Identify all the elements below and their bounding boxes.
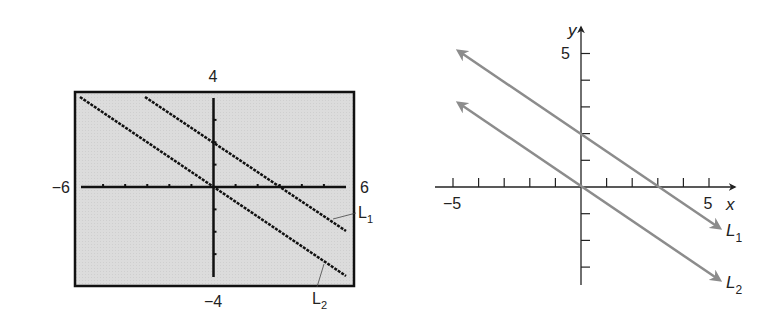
graph-l2-label: L2 — [726, 273, 742, 297]
graph-line-l2 — [460, 104, 718, 279]
x-neg-tick-label: −5 — [443, 195, 461, 212]
calc-l2-label: L2 — [312, 290, 327, 311]
x-pos-tick-label: 5 — [704, 195, 713, 212]
calc-xmin-label: −6 — [52, 179, 70, 196]
calculator-screen: 4 −4 −6 6 L1 L2 — [52, 68, 373, 311]
calc-xmax-label: 6 — [360, 179, 369, 196]
cartesian-graph: −5 5 5 x y L1 L2 — [435, 21, 742, 297]
calc-l1-label: L1 — [358, 204, 373, 225]
graph-l1-label: L1 — [726, 221, 742, 245]
calc-ymax-label: 4 — [209, 68, 218, 85]
figure: 4 −4 −6 6 L1 L2 −5 5 5 x y L1 L2 — [0, 0, 768, 334]
y-pos-tick-label: 5 — [561, 45, 570, 62]
graph-line-l1 — [460, 52, 718, 227]
calc-ymin-label: −4 — [204, 293, 222, 310]
y-axis-label: y — [567, 21, 578, 40]
x-axis-label: x — [725, 195, 735, 214]
